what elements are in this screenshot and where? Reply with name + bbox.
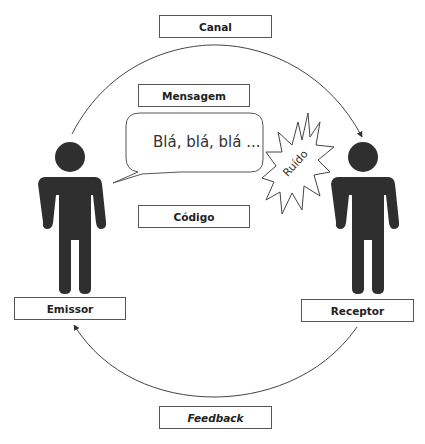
feedback-label: Feedback bbox=[159, 406, 272, 429]
code-label: Código bbox=[138, 205, 250, 228]
receiver-figure bbox=[331, 142, 399, 294]
speech-bubble-text: Blá, blá, blá ... bbox=[153, 133, 261, 151]
channel-label: Canal bbox=[159, 15, 272, 38]
feedback-arrow bbox=[74, 325, 357, 397]
message-label: Mensagem bbox=[138, 84, 250, 107]
receiver-label: Receptor bbox=[301, 299, 414, 322]
sender-label: Emissor bbox=[14, 297, 126, 320]
sender-figure bbox=[38, 142, 106, 294]
